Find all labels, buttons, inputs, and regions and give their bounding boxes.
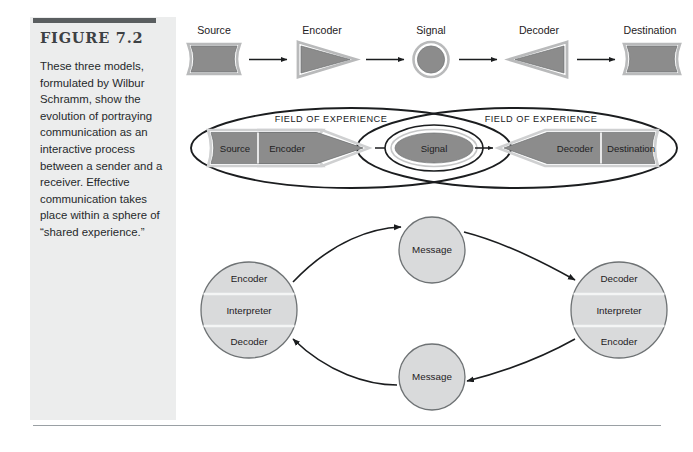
model-three-bottom-message-label: Message — [412, 371, 452, 382]
figure-title: FIGURE 7.2 — [40, 29, 170, 46]
model-three-top-message-label: Message — [412, 244, 452, 255]
model-two-shape-signal: Signal — [385, 125, 483, 171]
model-two-label-decoder: Decoder — [557, 143, 594, 154]
figure-title-rule — [33, 18, 156, 23]
model-two-label-signal: Signal — [421, 143, 448, 154]
model-two-label-destination: Destination — [607, 143, 655, 154]
model-two-shape-receiver: Decoder Destination — [498, 130, 658, 166]
communication-models-diagram: Source Encoder Signal Decoder Destinatio… — [183, 0, 693, 425]
model-three-top-message: Message — [399, 217, 465, 283]
model-one-label-decoder: Decoder — [519, 24, 560, 36]
model-three-right-label-encoder: Encoder — [601, 336, 638, 347]
model-three-arrow-top-left — [293, 227, 401, 282]
model-two-label-encoder: Encoder — [269, 143, 306, 154]
model-two-group: FIELD OF EXPERIENCE FIELD OF EXPERIENCE … — [191, 108, 677, 188]
model-one-shape-signal — [414, 42, 449, 77]
model-two-shape-sender: Source Encoder — [208, 130, 369, 166]
figure-bottom-rule — [33, 425, 661, 426]
field-of-experience-right-label: FIELD OF EXPERIENCE — [485, 114, 598, 124]
model-three-left-circle: Encoder Interpreter Decoder — [201, 262, 297, 358]
model-three-right-circle: Decoder Interpreter Encoder — [571, 262, 667, 358]
model-three-right-label-interpreter: Interpreter — [596, 305, 642, 316]
model-one-label-source: Source — [197, 24, 231, 36]
model-one-label-signal: Signal — [416, 24, 445, 36]
model-three-left-label-interpreter: Interpreter — [226, 305, 272, 316]
model-three-arrow-top-right — [464, 232, 575, 280]
model-one-label-destination: Destination — [624, 24, 677, 36]
model-three-group: Encoder Interpreter Decoder Decoder Inte… — [201, 217, 667, 410]
model-three-arrow-bottom-right — [467, 339, 575, 381]
model-one-shape-decoder — [509, 42, 567, 77]
model-one-group: Source Encoder Signal Decoder Destinatio… — [188, 24, 680, 77]
figure-caption: These three models, formulated by Wilbur… — [40, 58, 168, 241]
model-two-label-source: Source — [220, 143, 250, 154]
model-three-left-label-encoder: Encoder — [231, 273, 268, 284]
model-one-shape-destination — [624, 44, 680, 74]
field-of-experience-left-label: FIELD OF EXPERIENCE — [275, 114, 388, 124]
model-three-bottom-message: Message — [399, 344, 465, 410]
figure-page: FIGURE 7.2 These three models, formulate… — [0, 0, 693, 452]
model-three-left-label-decoder: Decoder — [230, 336, 268, 347]
model-one-shape-source — [188, 44, 240, 74]
model-one-shape-encoder — [298, 42, 356, 77]
model-one-label-encoder: Encoder — [302, 24, 342, 36]
model-three-right-label-decoder: Decoder — [600, 273, 638, 284]
model-three-arrow-bottom-left — [293, 339, 397, 385]
